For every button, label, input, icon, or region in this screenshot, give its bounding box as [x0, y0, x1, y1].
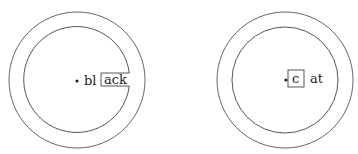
right-center-dot: [284, 78, 287, 81]
diagram-canvas: bl ack c at: [0, 0, 358, 154]
left-center-dot: [75, 79, 78, 82]
left-figure: bl ack: [9, 12, 145, 148]
right-outside-label: at: [310, 71, 324, 86]
right-figure: c at: [217, 12, 353, 148]
right-inside-label: c: [292, 71, 299, 86]
left-inside-label: ack: [104, 72, 127, 87]
left-outside-label: bl: [84, 73, 96, 88]
